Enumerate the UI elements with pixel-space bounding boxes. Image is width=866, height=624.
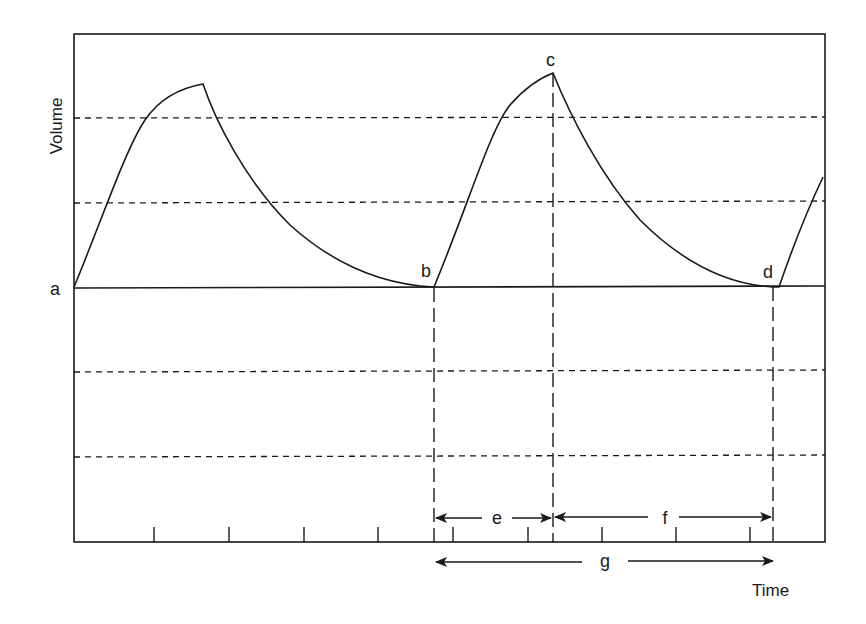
gridline-upper-2 xyxy=(74,201,825,203)
x-axis-label: Time xyxy=(752,581,789,600)
y-axis-label: Volume xyxy=(47,98,66,155)
interval-label-e: e xyxy=(492,508,502,528)
volume-time-diagram: Volume Time a b c d e f g xyxy=(0,0,866,624)
vertical-markers xyxy=(434,73,773,543)
interval-label-f: f xyxy=(662,508,668,528)
baseline xyxy=(74,286,825,288)
point-label-b: b xyxy=(421,261,431,281)
point-label-a: a xyxy=(50,279,61,299)
interval-label-g: g xyxy=(600,551,610,571)
x-axis-ticks xyxy=(154,527,750,542)
point-label-d: d xyxy=(763,262,773,282)
gridline-lower-2 xyxy=(74,455,825,457)
gridline-upper-1 xyxy=(74,117,825,118)
gridline-lower-1 xyxy=(74,370,825,372)
volume-waveform xyxy=(74,73,823,287)
point-label-c: c xyxy=(546,50,555,70)
